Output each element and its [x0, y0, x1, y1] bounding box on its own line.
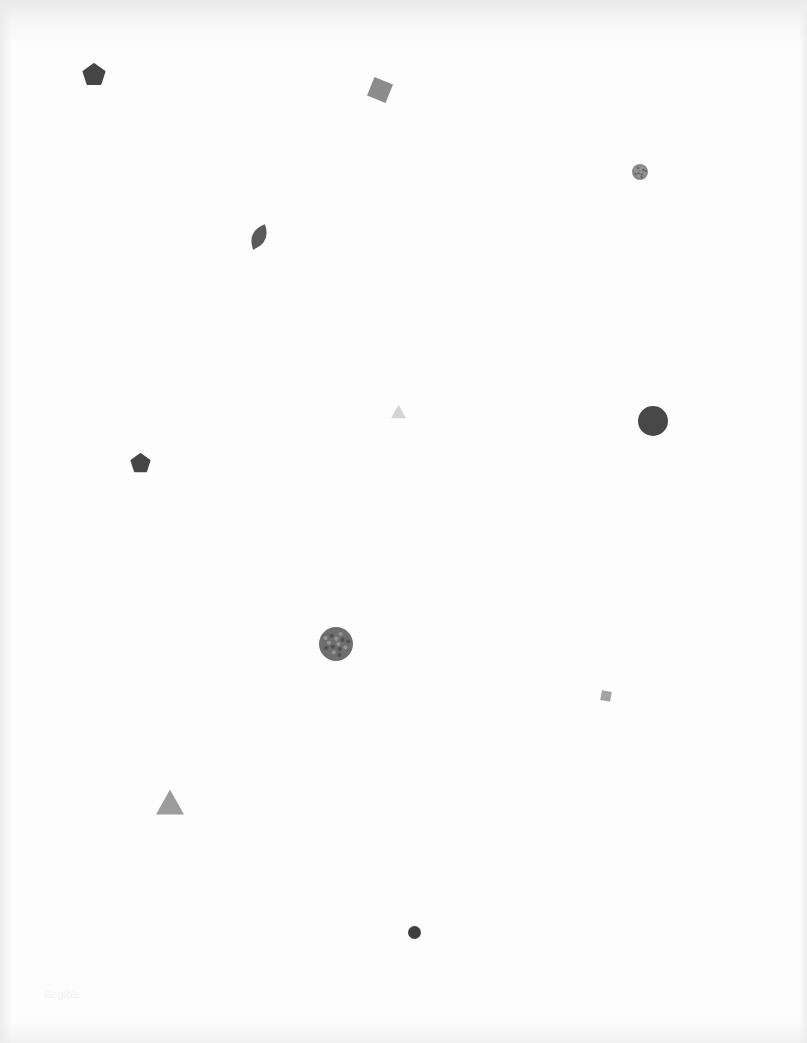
square-shape — [367, 77, 393, 103]
circle-shape — [635, 403, 671, 439]
page-edge-left — [0, 0, 12, 1043]
triangle-shape — [153, 785, 187, 819]
faint-footer-text: illegible — [44, 988, 184, 1004]
circle-shape — [629, 161, 651, 183]
pentagon-shape — [128, 451, 153, 476]
leaf-shape — [242, 220, 276, 254]
page-edge-right — [799, 0, 807, 1043]
pentagon-shape — [80, 61, 108, 89]
square-shape — [598, 688, 614, 704]
circle-shape — [405, 923, 424, 942]
scanned-page: illegible — [0, 0, 807, 1043]
circle-shape — [316, 624, 356, 664]
triangle-shape — [388, 401, 409, 422]
